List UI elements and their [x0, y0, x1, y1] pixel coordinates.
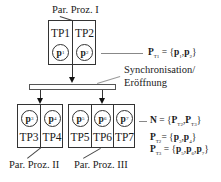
- process-index: 7: [126, 116, 129, 121]
- cell-tp7-label: TP7: [114, 132, 135, 144]
- formula-eq: = {: [157, 115, 172, 125]
- top-group-box: TP1 TP2 p1 p2: [48, 20, 96, 65]
- process-index: 5: [82, 116, 85, 121]
- formula-eq: = {: [159, 47, 174, 57]
- formula-close: }: [192, 132, 197, 142]
- formula-n: N = {PT2,PT3}: [150, 116, 201, 127]
- sync-label-line1: Synchronisation/: [124, 65, 195, 76]
- formula-eq: = {: [161, 144, 176, 154]
- sync-leader: [97, 76, 120, 84]
- formula-lhs: N: [150, 115, 157, 125]
- formula-pt3: PT3 = {p5,p6,p7}: [150, 145, 209, 156]
- top-formula-leader: [101, 53, 143, 54]
- cell-tp3-label: TP3: [18, 132, 40, 144]
- group-ii-label: Par. Proz. II: [9, 160, 59, 171]
- group-ii-leader: [27, 148, 41, 159]
- process-p4-circle: p4: [44, 110, 61, 127]
- formula-sub: 6: [192, 151, 195, 156]
- formula-pt1: PT1 = {p1,p2}: [148, 48, 197, 59]
- formula-eq: = {: [161, 132, 173, 142]
- group-iii-box: p5 p6 p7 TP5 TP6 TP7: [68, 104, 135, 148]
- formula-close: }: [192, 47, 197, 57]
- formula-sub: T2: [177, 122, 183, 127]
- process-p6-circle: p6: [94, 110, 111, 127]
- cell-tp4-label: TP4: [41, 132, 63, 144]
- formula-close: }: [204, 144, 209, 154]
- process-p3-circle: p3: [21, 110, 38, 127]
- cell-tp6-label: TP6: [92, 132, 113, 144]
- group-iii-leader: [83, 148, 101, 159]
- process-index: 3: [31, 116, 34, 121]
- top-group-label: Par. Proz. I: [52, 5, 99, 16]
- group-iii-label: Par. Proz. III: [74, 160, 128, 171]
- formula-pt2: PT2= {p3,p4}: [150, 133, 196, 144]
- n-formula-leader: [139, 121, 147, 122]
- process-index: 2: [86, 50, 89, 55]
- cell-tp2-label: TP2: [73, 28, 96, 40]
- formula-sub: 5: [181, 151, 184, 156]
- cell-tp5-label: TP5: [69, 132, 91, 144]
- process-index: 6: [104, 116, 107, 121]
- process-p5-circle: p5: [72, 110, 89, 127]
- formula-close: }: [197, 115, 202, 125]
- formula-sub: 1: [179, 54, 182, 59]
- group-ii-box: p3 p4 TP3 TP4: [17, 104, 63, 148]
- process-index: 4: [54, 116, 57, 121]
- arrow-down-icon: [69, 77, 75, 83]
- process-p1-circle: p1: [52, 44, 69, 61]
- process-p7-circle: p7: [116, 110, 133, 127]
- process-p2-circle: p2: [76, 44, 93, 61]
- sync-label-line2: Eröffnung: [124, 78, 167, 89]
- cell-tp1-label: TP1: [49, 28, 72, 40]
- process-index: 1: [62, 50, 65, 55]
